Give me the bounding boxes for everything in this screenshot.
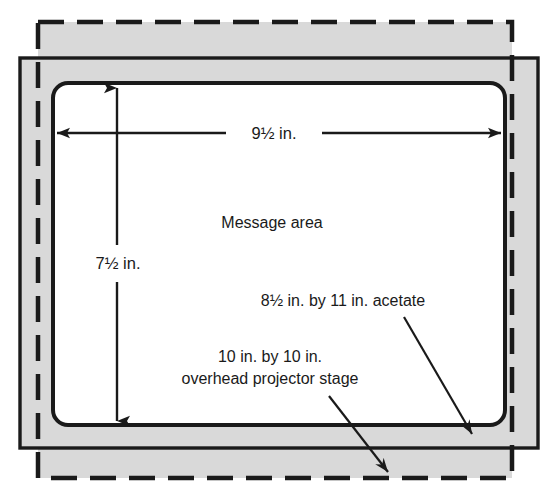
width-dimension-label: 9½ in. (252, 124, 297, 142)
stage-annotation-line1: 10 in. by 10 in. (218, 348, 322, 365)
height-dimension-label: 7½ in. (96, 254, 141, 272)
stage-annotation-line2: overhead projector stage (182, 370, 359, 387)
projector-layout-diagram: 9½ in. 7½ in. Message area 8½ in. by 11 … (0, 0, 547, 499)
diagram-canvas: 9½ in. 7½ in. Message area 8½ in. by 11 … (0, 0, 547, 499)
message-area-label: Message area (221, 214, 322, 231)
acetate-annotation-label: 8½ in. by 11 in. acetate (261, 292, 425, 309)
